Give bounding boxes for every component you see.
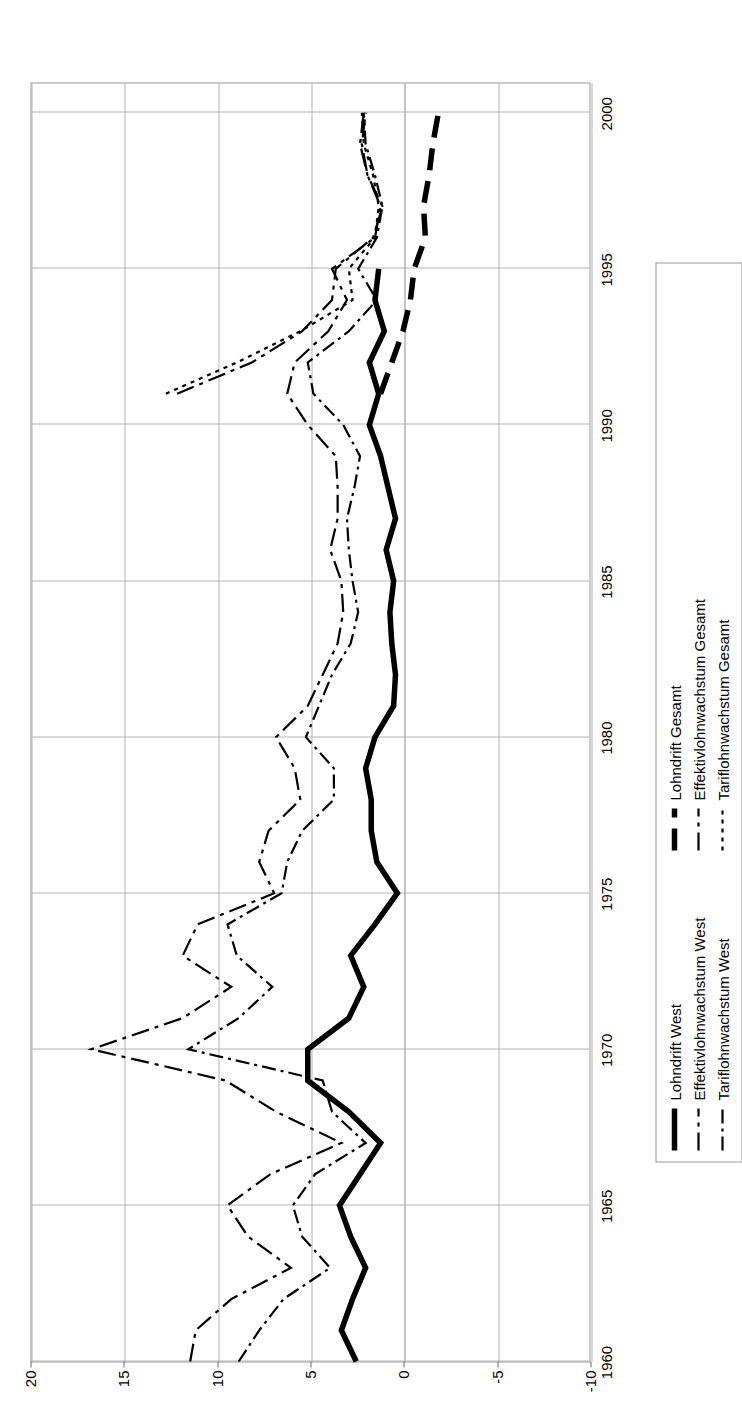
- value-tick-label: 20: [23, 1370, 38, 1387]
- legend-item: Lohndrift Gesamt: [662, 551, 686, 851]
- legend-item-label: Lohndrift West: [666, 1004, 683, 1100]
- series-line-0: [307, 268, 397, 1361]
- value-tick-label: -10: [583, 1370, 598, 1392]
- value-tick-mark: [30, 1361, 31, 1367]
- value-tick-mark: [497, 1361, 498, 1367]
- chart-area: 20151050-5-10 19601965197019751980198519…: [30, 82, 600, 1362]
- dotted-line-key: [715, 807, 729, 851]
- value-tick-label: 5: [303, 1370, 318, 1378]
- legend-item: Tariflohnwachstum West: [710, 851, 734, 1151]
- dashdot-thin-line-key: [715, 1107, 729, 1151]
- legend-item-label: Effektivlohnwachstum Gesamt: [690, 599, 707, 800]
- year-tick-label: 1975: [598, 877, 613, 910]
- year-axis: 196019651970197519801985199019952000: [590, 82, 630, 1362]
- legend-item: Lohndrift West: [662, 851, 686, 1151]
- year-tick-label: 1960: [598, 1345, 613, 1378]
- legend-item-label: Lohndrift Gesamt: [666, 685, 683, 800]
- value-tick-label: 10: [209, 1370, 224, 1387]
- legend-item: Effektivlohnwachstum Gesamt: [686, 551, 710, 851]
- legend-item: Effektivlohnwachstum West: [686, 851, 710, 1151]
- year-tick-label: 1985: [598, 565, 613, 598]
- value-tick-mark: [310, 1361, 311, 1367]
- solid-thin-line-key: [691, 1107, 705, 1151]
- value-tick-label: -5: [489, 1370, 504, 1383]
- year-tick-label: 1980: [598, 721, 613, 754]
- dashed-thick-line-key: [667, 807, 681, 851]
- dashdot-line-key: [691, 807, 705, 851]
- plot-area: [30, 82, 590, 1362]
- value-axis: 20151050-5-10: [30, 1366, 590, 1414]
- year-tick-label: 2000: [598, 97, 613, 130]
- value-tick-mark: [403, 1361, 404, 1367]
- solid-thick-line-key: [667, 1107, 681, 1151]
- value-tick-label: 0: [396, 1370, 411, 1378]
- legend-item-label: Tariflohnwachstum Gesamt: [714, 619, 731, 800]
- year-tick-label: 1970: [598, 1033, 613, 1066]
- year-tick-label: 1965: [598, 1189, 613, 1222]
- series-lines: [31, 81, 591, 1361]
- year-tick-label: 1990: [598, 409, 613, 442]
- value-tick-mark: [123, 1361, 124, 1367]
- value-tick-label: 15: [116, 1370, 131, 1387]
- series-line-2: [91, 112, 380, 1361]
- chart-legend: Lohndrift WestLohndrift GesamtEffektivlo…: [655, 262, 742, 1162]
- legend-item-label: Tariflohnwachstum West: [714, 938, 731, 1100]
- value-tick-mark: [217, 1361, 218, 1367]
- series-line-3: [177, 112, 382, 393]
- series-line-1: [380, 112, 438, 393]
- legend-item: Tariflohnwachstum Gesamt: [710, 551, 734, 851]
- legend-item-label: Effektivlohnwachstum West: [690, 917, 707, 1100]
- year-tick-label: 1995: [598, 253, 613, 286]
